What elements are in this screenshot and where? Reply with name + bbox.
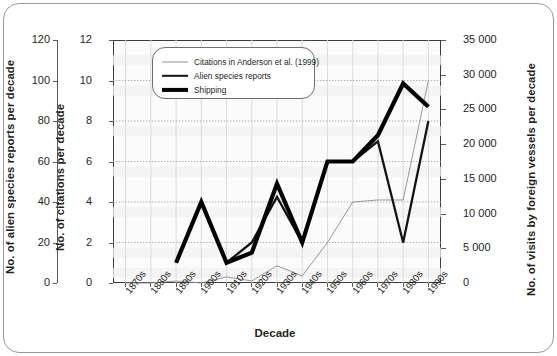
legend-item-label: Shipping <box>194 85 226 95</box>
axis-left-outer-tick: 20 <box>16 236 50 248</box>
axis-left-inner-tick: 4 <box>76 195 92 207</box>
legend-swatch-icon <box>162 56 188 68</box>
axis-left-outer-title: No. of alien species reports per decade <box>4 36 16 298</box>
legend-swatch-icon <box>162 70 188 82</box>
axis-right-tick: 15 000 <box>463 172 509 184</box>
x-tickmark <box>403 283 404 287</box>
x-tickmark <box>327 283 328 287</box>
legend-item: Shipping <box>162 83 314 96</box>
axis-left-inner-tick: 8 <box>76 114 92 126</box>
axis-right-tick: 5 000 <box>463 241 509 253</box>
x-tickmark <box>150 283 151 287</box>
legend-item-label: Alien species reports <box>194 71 271 81</box>
axis-right-tick: 10 000 <box>463 207 509 219</box>
axis-right-tick: 25 000 <box>463 102 509 114</box>
x-tickmark <box>125 283 126 287</box>
chart-legend: Citations in Anderson et al. (1999)Alien… <box>152 47 315 99</box>
x-tickmark <box>176 283 177 287</box>
axis-left-inner-tick: 2 <box>76 236 92 248</box>
axis-right-tick: 30 000 <box>463 68 509 80</box>
axis-left-inner-tick: 10 <box>76 74 92 86</box>
axis-right-title: No. of visits by foreign vessels per dec… <box>525 55 537 305</box>
axis-left-inner-tick: 6 <box>76 155 92 167</box>
axis-right-tick: 20 000 <box>463 137 509 149</box>
axis-left-outer-tick: 40 <box>16 195 50 207</box>
axis-left-outer-tickmark <box>53 40 57 41</box>
legend-item: Citations in Anderson et al. (1999) <box>162 55 314 68</box>
axis-left-inner-tick: 0 <box>76 276 92 288</box>
axis-right-tick: 35 000 <box>463 33 509 45</box>
x-tickmark <box>226 283 227 287</box>
x-tickmark <box>352 283 353 287</box>
x-tickmark <box>277 283 278 287</box>
x-tickmark <box>201 283 202 287</box>
x-tickmark <box>428 283 429 287</box>
x-axis-title: Decade <box>195 327 355 339</box>
axis-left-outer-tick: 100 <box>16 74 50 86</box>
axis-left-outer-tick: 80 <box>16 114 50 126</box>
axis-left-inner-title: No. of citations per decade <box>54 60 66 295</box>
legend-swatch-icon <box>162 84 188 96</box>
legend-item: Alien species reports <box>162 69 314 82</box>
axis-right-tick: 0 <box>463 276 509 288</box>
axis-left-outer-tick: 120 <box>16 33 50 45</box>
figure-root: 120100806040200 No. of alien species rep… <box>0 0 557 356</box>
axis-left-inner-tick: 12 <box>76 33 92 45</box>
legend-item-label: Citations in Anderson et al. (1999) <box>194 57 319 67</box>
axis-left-outer-tick: 0 <box>16 276 50 288</box>
x-tickmark <box>377 283 378 287</box>
x-tickmark <box>302 283 303 287</box>
x-tickmark <box>251 283 252 287</box>
axis-left-outer-tick: 60 <box>16 155 50 167</box>
